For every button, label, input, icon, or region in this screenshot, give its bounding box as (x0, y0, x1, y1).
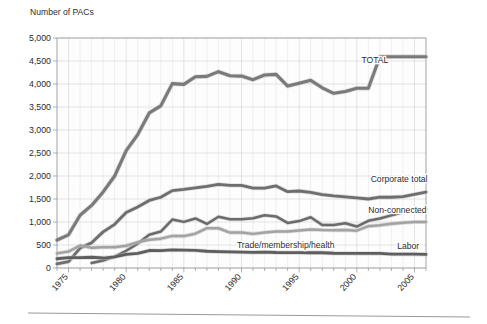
series-label-total: TOTAL (361, 55, 388, 65)
series-label-corporate-total: Corporate total (371, 174, 428, 184)
series-label-labor: Labor (397, 241, 419, 251)
pac-chart-figure: 05001,0001,5002,0002,5003,0003,5004,0004… (0, 0, 487, 324)
y-tick-label: 3,000 (29, 125, 51, 135)
chart-canvas: 05001,0001,5002,0002,5003,0003,5004,0004… (0, 0, 487, 324)
y-tick-label: 5,000 (29, 33, 51, 43)
y-tick-label: 3,500 (29, 102, 51, 112)
series-label-trade-membership-health: Trade/membership/health (237, 240, 335, 250)
y-tick-label: 500 (36, 240, 51, 250)
y-tick-label: 4,000 (29, 79, 51, 89)
y-tick-label: 1,500 (29, 194, 51, 204)
y-tick-label: 0 (46, 263, 51, 273)
series-label-non-connected: Non-connected (368, 205, 427, 215)
chart-title: Number of PACs (30, 7, 94, 17)
y-tick-label: 1,000 (29, 217, 51, 227)
y-tick-label: 2,500 (29, 148, 51, 158)
y-tick-label: 4,500 (29, 56, 51, 66)
y-tick-label: 2,000 (29, 171, 51, 181)
